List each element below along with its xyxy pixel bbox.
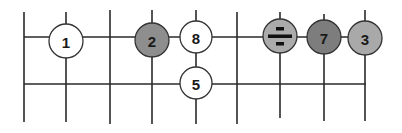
node-2: 2 xyxy=(135,23,169,57)
node-label: 7 xyxy=(320,30,328,47)
node-5: 5 xyxy=(180,67,212,99)
node-label: 3 xyxy=(361,31,369,48)
node-7: 7 xyxy=(307,20,341,54)
node-divide xyxy=(263,19,297,53)
grid-nodes: 128573 xyxy=(49,19,382,99)
node-1: 1 xyxy=(49,24,83,58)
node-label: 2 xyxy=(148,33,156,50)
node-label: 1 xyxy=(62,34,70,51)
node-label: 5 xyxy=(192,76,200,93)
node-8: 8 xyxy=(180,21,212,53)
grid-diagram: 128573 xyxy=(0,0,402,133)
node-label: 8 xyxy=(192,30,200,47)
node-3: 3 xyxy=(348,21,382,55)
